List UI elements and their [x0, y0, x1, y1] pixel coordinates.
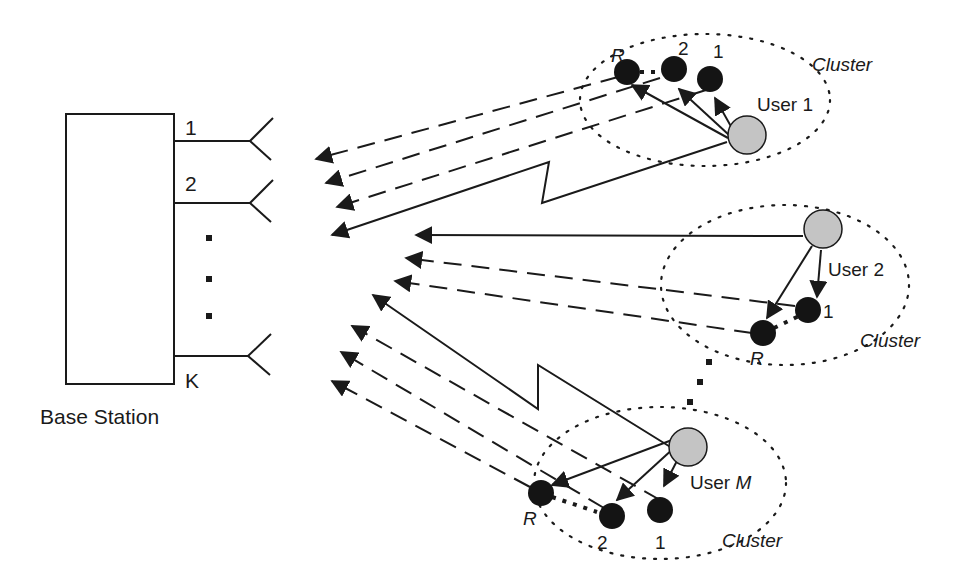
direct-link-user-m: [373, 295, 672, 448]
cluster-user-m: Cluster R 2 1 User M: [332, 295, 786, 559]
direct-link-user-1: [332, 142, 727, 235]
relay-link-2: [341, 352, 604, 508]
user-to-relay-1: [817, 250, 821, 297]
relay-node-1: [795, 297, 821, 323]
relay-label-r: R: [750, 348, 764, 369]
relay-label-1: 1: [823, 301, 834, 322]
relay-link-1: [337, 90, 706, 207]
user-node-2: [804, 210, 842, 248]
cluster-label: Cluster: [860, 330, 921, 351]
cluster-label: Cluster: [812, 54, 873, 75]
cluster-label: Cluster: [722, 530, 783, 551]
antenna-label-1: 1: [185, 116, 197, 139]
relay-link-1: [406, 258, 795, 306]
relay-label-r: R: [523, 508, 537, 529]
user-to-relay-2: [679, 89, 729, 135]
relay-label-1: 1: [713, 41, 724, 62]
relay-node-r: [528, 480, 554, 506]
antenna-k: K: [174, 334, 271, 392]
relay-node-2: [661, 56, 687, 82]
antenna-1: 1: [174, 116, 273, 160]
cluster-user-1: Cluster R 2 1 User 1: [316, 34, 873, 235]
user-node-m: [669, 428, 707, 466]
cluster-user-2: Cluster 1 R User 2: [395, 205, 921, 369]
direct-link-user-2: [416, 235, 803, 236]
relay-label-1: 1: [655, 532, 666, 553]
relay-link-r: [316, 77, 618, 159]
base-station-box: [66, 114, 174, 384]
relay-link-r: [395, 281, 752, 333]
user-to-relay-r: [552, 440, 672, 485]
base-station: 1 2 K Base Station: [40, 114, 273, 428]
relay-label-2: 2: [678, 38, 689, 59]
user-node-1: [728, 116, 766, 154]
user-label-2: User 2: [828, 259, 884, 280]
relay-node-r: [750, 320, 776, 346]
relay-node-1: [647, 497, 673, 523]
base-station-label: Base Station: [40, 405, 159, 428]
relay-link-2: [326, 78, 660, 183]
user-to-relay-r: [632, 85, 728, 138]
cooperative-relay-diagram: 1 2 K Base Station Cluster: [0, 0, 965, 581]
user-label-m: User M: [690, 472, 751, 493]
antenna-ellipsis: [206, 235, 212, 319]
relay-label-r: R: [611, 45, 625, 66]
antenna-label-k: K: [185, 369, 199, 392]
user-label-1: User 1: [757, 94, 813, 115]
relay-node-2: [599, 503, 625, 529]
relay-node-1: [697, 66, 723, 92]
relay-label-2: 2: [597, 532, 608, 553]
antenna-2: 2: [174, 172, 273, 222]
antenna-label-2: 2: [185, 172, 197, 195]
relay-link-r: [332, 381, 530, 487]
users-ellipsis: [687, 359, 712, 405]
